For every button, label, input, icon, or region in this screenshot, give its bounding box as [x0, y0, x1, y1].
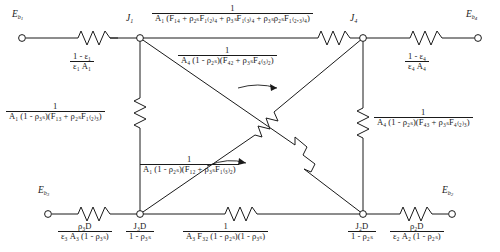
resistance-label-space-4-3: 1 A₄ (1 - ρ₂ₛ)(F₄₃ + ρ₃ₛF₄₍₂₎₃) [374, 108, 473, 126]
resistance-denominator: A₁ (1 - ρ₂ₛ)(F₁₂ + ρ₃ₛF₁₍₃₎₂) [140, 165, 239, 174]
callout-arrowhead-lower [238, 158, 246, 165]
node-label-j3d: J₃D 1 - ρ₃ₛ [126, 222, 154, 240]
terminal-label-eb3: Eb3 [38, 186, 49, 197]
resistance-denominator: ε₄ A₄ [405, 62, 429, 71]
terminal-label-eb4: Eb4 [466, 10, 477, 21]
resistance-label-surface-1: 1 - ε₁ ε₁ A₁ [70, 52, 94, 70]
resistance-label-surface-4: 1 - ε₄ ε₄ A₄ [405, 52, 429, 70]
terminal-label-eb1: Eb1 [12, 10, 23, 21]
resistance-denominator: A₄ (1 - ρ₂ₛ)(F₄₂ + ρ₃ₛF₄₍₃₎₂) [178, 56, 277, 65]
resistance-label-space-1-2: 1 A₁ (1 - ρ₂ₛ)(F₁₂ + ρ₃ₛF₁₍₃₎₂) [140, 155, 239, 173]
terminal-eb2 [449, 211, 456, 218]
resistor-zigzag-space-1-2 [255, 112, 278, 137]
resistor-zigzag-space-1-4 [318, 31, 363, 45]
terminal-label-eb2: Eb2 [442, 186, 453, 197]
resistance-denominator: ε₁ A₁ [70, 62, 94, 71]
node-j1 [137, 35, 144, 42]
node-denominator: 1 - ρ₃ₛ [126, 232, 154, 241]
callout-arrowhead-upper [270, 84, 277, 91]
resistance-label-space-4-2: 1 A₄ (1 - ρ₂ₛ)(F₄₂ + ρ₃ₛF₄₍₃₎₂) [178, 46, 277, 64]
resistor-zigzag-surface-4 [410, 31, 474, 45]
resistance-label-surface-3d: ρ₃D ε₃ A₃ (1 - ρ₃ₛ) [58, 222, 112, 240]
wire-diagonal-j1-to-j2d-b [304, 169, 363, 214]
resistor-zigzag-space-4-3 [357, 108, 369, 214]
node-label-j1: J1 [126, 14, 133, 24]
resistor-zigzag-space-4-2 [295, 137, 315, 172]
resistance-denominator: A₁ (1 - ρ₃ₛ)(F₁₃ + ρ₂ₛF₁₍₂₎₃) [6, 112, 105, 121]
node-j4 [360, 35, 367, 42]
node-j2d [360, 211, 367, 218]
terminal-eb3 [45, 211, 52, 218]
terminal-eb4 [475, 35, 482, 42]
resistance-denominator: ε₂ A₂ (1 - ρ₂ₛ) [390, 232, 444, 241]
terminal-eb1 [19, 35, 26, 42]
resistor-zigzag-space-3-2 [225, 207, 363, 221]
resistance-label-space-3-2: 1 A₃ F₃₂ (1 - ρ₂ₛ)(1 - ρ₃ₛ) [183, 222, 268, 240]
resistance-denominator: ε₃ A₃ (1 - ρ₃ₛ) [58, 232, 112, 241]
resistance-label-space-1-3: 1 A₁ (1 - ρ₃ₛ)(F₁₃ + ρ₂ₛF₁₍₂₎₃) [6, 102, 105, 120]
resistor-zigzag-surface-2d [400, 207, 448, 221]
wire-diagonal-j3d-to-j4-a [140, 135, 255, 214]
resistance-label-space-1-4: 1 A₁ (F₁₄ + ρ₂ₛF₁₍₂₎₄ + ρ₃ₛF₁₍₃₎₄ + ρ₃ₛρ… [152, 4, 313, 22]
node-label-j4: J4 [350, 14, 357, 24]
resistance-denominator: A₄ (1 - ρ₂ₛ)(F₄₃ + ρ₃ₛF₄₍₂₎₃) [374, 118, 473, 127]
node-denominator: 1 - ρ₂ₛ [348, 232, 376, 241]
resistor-zigzag-surface-3d [78, 207, 140, 221]
node-label-j2d: J₂D 1 - ρ₂ₛ [348, 222, 376, 240]
resistance-denominator: A₁ (F₁₄ + ρ₂ₛF₁₍₂₎₄ + ρ₃ₛF₁₍₃₎₄ + ρ₃ₛρ₂ₛ… [152, 14, 313, 23]
wire-diagonal-j3d-to-j4-b [274, 38, 363, 112]
node-j3d [137, 211, 144, 218]
resistance-label-surface-2d: ρ₂D ε₂ A₂ (1 - ρ₂ₛ) [390, 222, 444, 240]
resistance-denominator: A₃ F₃₂ (1 - ρ₂ₛ)(1 - ρ₃ₛ) [183, 232, 268, 241]
